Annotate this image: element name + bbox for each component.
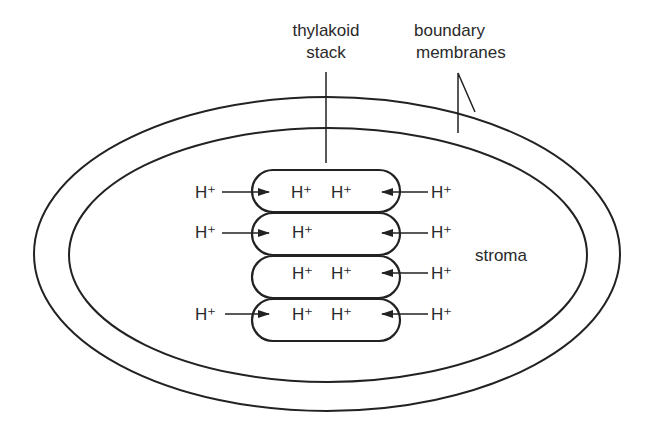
boundary-membranes-label-1: boundary (414, 21, 485, 40)
stroma-label: stroma (475, 246, 528, 265)
thylakoid-stack-label-2: stack (306, 43, 346, 62)
proton-ion: H⁺ (431, 305, 452, 324)
proton-ion: H⁺ (195, 305, 216, 324)
proton-ion: H⁺ (195, 183, 216, 202)
proton-ion: H⁺ (292, 305, 313, 324)
thylakoid-disc (252, 170, 400, 212)
proton-ion: H⁺ (431, 264, 452, 283)
boundary-membranes-label-2: membranes (416, 43, 506, 62)
proton-ion: H⁺ (431, 223, 452, 242)
thylakoid-disc (252, 213, 400, 255)
proton-ion: H⁺ (292, 223, 313, 242)
proton-ion: H⁺ (292, 264, 313, 283)
thylakoid-stack (252, 170, 400, 341)
proton-ion: H⁺ (195, 223, 216, 242)
proton-ion: H⁺ (431, 183, 452, 202)
chloroplast-diagram: thylakoid stack boundary membranes strom… (0, 0, 651, 439)
thylakoid-disc (252, 299, 400, 341)
boundary-pointer-lines (458, 73, 475, 133)
proton-ion: H⁺ (331, 264, 352, 283)
proton-ion: H⁺ (331, 305, 352, 324)
proton-ion: H⁺ (291, 183, 312, 202)
proton-ion: H⁺ (331, 183, 352, 202)
thylakoid-stack-label-1: thylakoid (292, 21, 359, 40)
thylakoid-disc (252, 256, 400, 298)
